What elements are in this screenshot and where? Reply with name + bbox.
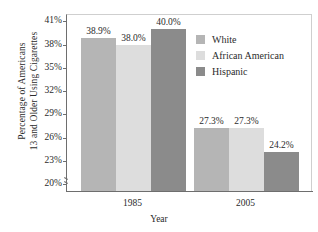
bar-value-label: 38.0% [112,33,155,43]
y-axis-tick-labels: 20%23%26%29%32%35%38%41% [30,0,62,232]
bar-value-label: 40.0% [147,17,190,27]
y-axis-tick-label: 23% [30,155,62,165]
y-axis-tick-label: 32% [30,85,62,95]
legend-item: African American [196,47,284,63]
y-axis-tick-mark [63,161,67,162]
y-axis-title-line-1: Percentage of Americans [17,0,29,186]
bar-african-american-1985 [116,45,151,193]
bar-african-american-2005 [229,128,264,192]
y-axis-tick-mark [63,45,67,46]
y-axis-tick-mark [63,68,67,69]
y-axis-tick-label: 38% [30,39,62,49]
legend-item: White [196,31,284,47]
legend-swatch-icon [196,35,205,44]
x-axis-tick-label: 2005 [193,198,298,209]
chart-legend: WhiteAfrican AmericanHispanic [196,31,284,79]
y-axis-tick-label: 26% [30,132,62,142]
x-axis-tick-label: 1985 [80,198,185,209]
y-axis-tick-label: 29% [30,108,62,118]
bar-white-1985 [81,38,116,192]
legend-swatch-icon [196,51,205,60]
y-axis-tick-label: 20% [30,178,62,188]
y-axis-tick-mark [63,114,67,115]
bar-chart: Percentage of Americans 13 and Older Usi… [0,0,318,232]
legend-item: Hispanic [196,63,284,79]
bar-value-label: 27.3% [225,116,268,126]
y-axis-tick-label: 35% [30,62,62,72]
y-axis-tick-mark [63,91,67,92]
legend-label: Hispanic [212,66,248,77]
legend-label: White [212,34,236,45]
x-axis-title: Year [0,214,318,225]
y-axis-tick-mark [63,21,67,22]
bar-hispanic-2005 [264,152,299,192]
y-axis-tick-mark [63,138,67,139]
legend-label: African American [212,50,284,61]
x-axis-line [66,191,313,192]
y-axis-tick-label: 41% [30,15,62,25]
bar-hispanic-1985 [151,29,186,192]
bar-value-label: 24.2% [260,140,303,150]
legend-swatch-icon [196,67,205,76]
bar-white-2005 [194,128,229,192]
axis-break-icon [62,177,71,189]
